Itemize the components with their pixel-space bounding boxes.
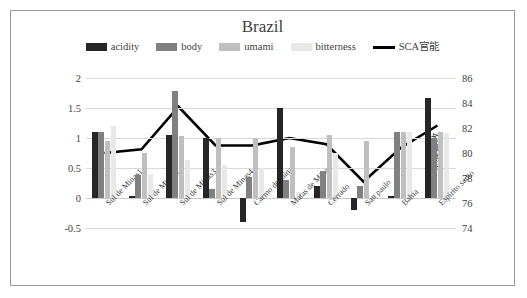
- y-axis-tick-left: -0.5: [64, 223, 81, 234]
- legend-label: body: [181, 42, 202, 53]
- bar-body-5: [283, 180, 289, 198]
- gridline: [86, 228, 456, 229]
- y-axis-tick-right: 76: [462, 198, 473, 209]
- bar-acidity-5: [277, 108, 283, 198]
- bar-swatch-icon: [219, 43, 240, 51]
- bar-umami-9: [438, 132, 444, 198]
- legend-label: acidity: [111, 42, 140, 53]
- bar-acidity-1: [129, 196, 135, 198]
- gridline: [86, 108, 456, 109]
- bar-body-4: [246, 177, 252, 198]
- bar-body-2: [172, 91, 178, 198]
- bar-umami-4: [253, 138, 259, 198]
- y-axis-tick-left: 2: [76, 73, 81, 84]
- bar-body-7: [357, 186, 363, 198]
- legend-item-umami[interactable]: umami: [219, 42, 273, 53]
- bar-bitterness-0: [111, 126, 117, 198]
- bar-umami-8: [401, 132, 407, 198]
- bar-body-6: [320, 171, 326, 198]
- bar-umami-2: [179, 136, 185, 198]
- bar-umami-0: [105, 141, 111, 198]
- bar-body-1: [135, 175, 141, 198]
- bar-umami-3: [216, 138, 222, 198]
- y-axis-tick-left: 0: [76, 193, 81, 204]
- bar-body-9: [431, 138, 437, 198]
- sca-line-path: [105, 107, 438, 182]
- bar-swatch-icon: [86, 43, 107, 51]
- chart-frame: Brazil aciditybodyumamibitternessSCA官能 強…: [10, 10, 515, 286]
- legend-item-acidity[interactable]: acidity: [86, 42, 140, 53]
- y-axis-tick-left: 1: [76, 133, 81, 144]
- y-axis-tick-left: 1.5: [68, 103, 81, 114]
- legend-label: bitterness: [316, 42, 356, 53]
- legend-item-body[interactable]: body: [156, 42, 202, 53]
- legend-label: SCA官能: [399, 42, 439, 53]
- y-axis-tick-right: 86: [462, 73, 473, 84]
- bar-umami-1: [142, 153, 148, 198]
- y-axis-tick-right: 80: [462, 148, 473, 159]
- bar-acidity-6: [314, 186, 320, 198]
- y-axis-tick-right: 82: [462, 123, 473, 134]
- bar-acidity-4: [240, 198, 246, 222]
- y-axis-tick-right: 84: [462, 98, 473, 109]
- y-axis-tick-left: 0.5: [68, 163, 81, 174]
- bar-umami-7: [364, 141, 370, 198]
- plot-area: 21.510.50-0.586848280787674Sul de Minas1…: [86, 78, 456, 228]
- legend-item-bitterness[interactable]: bitterness: [291, 42, 356, 53]
- bar-acidity-2: [166, 135, 172, 198]
- bar-body-8: [394, 132, 400, 198]
- legend-label: umami: [244, 42, 273, 53]
- chart-title: Brazil: [11, 17, 514, 37]
- gridline: [86, 78, 456, 79]
- bar-swatch-icon: [156, 43, 177, 51]
- bar-acidity-0: [92, 132, 98, 198]
- bar-acidity-7: [351, 198, 357, 210]
- y-axis-tick-right: 74: [462, 223, 473, 234]
- bar-body-0: [98, 132, 104, 198]
- bar-umami-5: [290, 147, 296, 198]
- chart-legend: aciditybodyumamibitternessSCA官能: [11, 42, 514, 53]
- bar-swatch-icon: [291, 43, 312, 51]
- bar-acidity-3: [203, 138, 209, 198]
- bar-umami-6: [327, 135, 333, 198]
- bar-acidity-9: [425, 98, 431, 198]
- bar-body-3: [209, 189, 215, 198]
- bar-acidity-8: [388, 196, 394, 198]
- line-swatch-icon: [373, 46, 395, 49]
- legend-item-sca官能[interactable]: SCA官能: [373, 42, 439, 53]
